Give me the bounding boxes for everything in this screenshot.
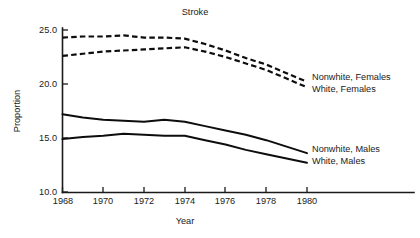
y-tick-label: 20.0: [39, 79, 57, 89]
x-tick-label: 1974: [175, 196, 195, 206]
x-tick-label: 1980: [297, 196, 317, 206]
chart-figure: 25.0 20.0 15.0 10.0 1968 1970 1972 1974 …: [0, 0, 420, 238]
x-tick-label: 1976: [215, 196, 235, 206]
stroke-line-chart: 25.0 20.0 15.0 10.0 1968 1970 1972 1974 …: [0, 0, 420, 238]
y-tick-marks: [63, 30, 69, 192]
annotation-nonwhite-males: Nonwhite, Males: [312, 144, 380, 154]
y-axis-title: Proportion: [12, 90, 22, 132]
x-tick-labels: 1968 1970 1972 1974 1976 1978 1980: [53, 196, 317, 206]
chart-title: Stroke: [182, 7, 209, 17]
x-tick-label: 1972: [134, 196, 154, 206]
annotation-white-females: White, Females: [312, 84, 376, 94]
y-tick-label: 25.0: [39, 25, 57, 35]
y-tick-label: 15.0: [39, 133, 57, 143]
series-group: [63, 35, 308, 162]
x-tick-label: 1968: [53, 196, 73, 206]
series-line-nonwhite-males: [63, 114, 308, 153]
series-line-nonwhite-females: [63, 35, 308, 81]
x-axis-title: Year: [176, 216, 195, 226]
x-tick-marks: [63, 187, 308, 193]
annotation-white-males: White, Males: [312, 156, 366, 166]
annotation-nonwhite-females: Nonwhite, Females: [312, 72, 391, 82]
x-tick-label: 1978: [256, 196, 276, 206]
series-line-white-males: [63, 134, 308, 163]
y-tick-labels: 25.0 20.0 15.0 10.0: [39, 25, 57, 197]
series-annotations: Nonwhite, Females White, Females Nonwhit…: [312, 72, 391, 166]
x-tick-label: 1970: [93, 196, 113, 206]
